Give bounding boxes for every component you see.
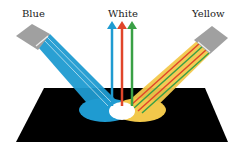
label-white: White [108,8,138,19]
reflected-arrows [107,21,137,106]
label-yellow: Yellow [192,8,225,19]
diagram-graphic [0,0,245,149]
additive-color-diagram: Blue White Yellow [0,0,245,149]
label-blue: Blue [22,8,45,19]
